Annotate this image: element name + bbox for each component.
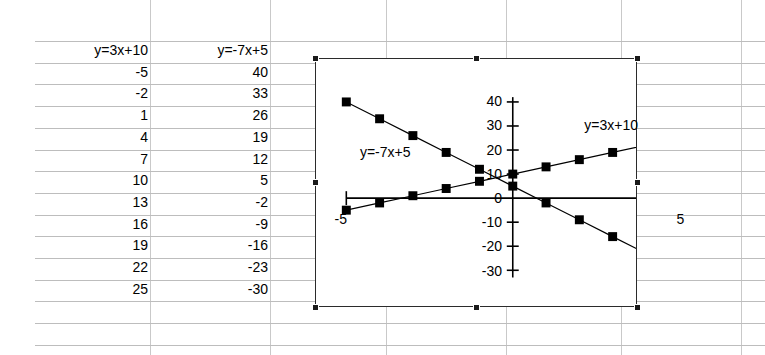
data-point-marker [408,191,417,200]
table-cell[interactable]: 10 [132,172,148,188]
table-cell[interactable]: -9 [256,216,268,232]
y-axis-tick-label: -10 [482,214,502,230]
spreadsheet-canvas[interactable]: y=3x+10-5-2147101316192225y=-7x+54033261… [0,0,765,355]
data-point-marker [475,177,484,186]
data-point-marker [542,162,551,171]
selection-handle[interactable] [312,55,319,62]
table-cell[interactable]: -2 [256,194,268,210]
selection-handle[interactable] [312,179,319,186]
data-point-marker [575,215,584,224]
table-cell[interactable]: 16 [132,216,148,232]
y-axis-tick-label: 40 [486,93,502,109]
table-cell[interactable]: -16 [248,237,268,253]
row-divider [35,345,765,346]
data-point-marker [608,232,617,241]
series-label-1: y=3x+10 [584,117,638,133]
data-point-marker [608,148,617,157]
data-point-marker [542,198,551,207]
data-point-marker [475,165,484,174]
data-point-marker [408,131,417,140]
table-cell[interactable]: 19 [252,129,268,145]
y-axis-tick-label: -20 [482,238,502,254]
table-cell[interactable]: 7 [140,151,148,167]
table-cell[interactable]: 26 [252,107,268,123]
y-axis-tick-label: 30 [486,117,502,133]
table-cell[interactable]: -30 [248,281,268,297]
data-point-marker [442,148,451,157]
data-point-marker [442,184,451,193]
selection-handle[interactable] [473,304,480,311]
table-cell[interactable]: 22 [132,259,148,275]
table-cell[interactable]: 25 [132,281,148,297]
y-axis-tick-label: 10 [486,166,502,182]
data-point-marker [508,170,517,179]
table-cell[interactable]: 1 [140,107,148,123]
row-divider [35,323,765,324]
selection-handle[interactable] [312,304,319,311]
table-cell[interactable]: 33 [252,85,268,101]
data-point-marker [508,182,517,191]
table-cell[interactable]: 12 [252,151,268,167]
table-cell[interactable]: 40 [252,64,268,80]
column-header-2[interactable]: y=-7x+5 [217,42,268,58]
selection-handle[interactable] [634,55,641,62]
table-cell[interactable]: 19 [132,237,148,253]
data-point-marker [375,114,384,123]
table-cell[interactable]: 5 [260,172,268,188]
y-axis-tick-label: 20 [486,142,502,158]
y-axis-tick-label: 0 [494,190,502,206]
chart-plot-area [316,59,636,306]
table-cell[interactable]: -5 [136,64,148,80]
data-point-marker [342,97,351,106]
selection-handle[interactable] [634,179,641,186]
series-label-2: y=-7x+5 [360,144,411,160]
table-cell[interactable]: 4 [140,129,148,145]
selection-handle[interactable] [634,304,641,311]
x-axis-tick-label: 5 [677,211,685,227]
table-cell[interactable]: -2 [136,85,148,101]
data-point-marker [375,198,384,207]
embedded-chart-object[interactable]: 403020100-10-20-30-55y=3x+10y=-7x+5 [315,58,637,307]
y-axis-tick-label: -30 [482,263,502,279]
table-cell[interactable]: 13 [132,194,148,210]
x-axis-tick-label: -5 [335,211,347,227]
column-header-1[interactable]: y=3x+10 [94,42,148,58]
selection-handle[interactable] [473,55,480,62]
data-point-marker [575,155,584,164]
table-cell[interactable]: -23 [248,259,268,275]
